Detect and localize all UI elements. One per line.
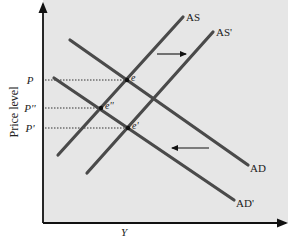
price-label: P	[26, 74, 34, 86]
ad-prime-label: AD'	[236, 197, 254, 209]
x-axis-label: Y	[121, 226, 129, 238]
e-double-prime-label: e''	[105, 100, 115, 111]
price-label: P'	[24, 122, 35, 134]
e-double-prime-point	[99, 106, 103, 110]
e-point	[125, 78, 129, 82]
e-label: e	[131, 72, 136, 83]
as-label: AS	[186, 11, 200, 23]
price-label: P''	[23, 102, 36, 114]
price-labels: PP''P'	[23, 74, 36, 134]
as-ad-diagram: ASAS'ADAD' ee''e' Price level Y PP''P'	[0, 0, 302, 239]
ad-label: AD	[250, 162, 266, 174]
y-axis-label: Price level	[7, 86, 21, 138]
plot-panel	[43, 0, 288, 223]
e-prime-label: e'	[132, 120, 139, 131]
e-prime-point	[126, 126, 130, 130]
as-prime-label: AS'	[216, 26, 232, 38]
